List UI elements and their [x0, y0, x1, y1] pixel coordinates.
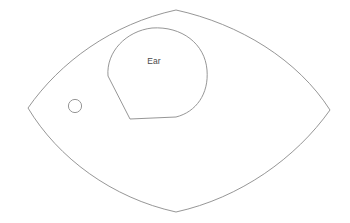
ear-piece-label: Ear [147, 56, 161, 66]
pattern-canvas: Ear [0, 0, 350, 223]
hole-marker-circle [68, 99, 81, 112]
outer-body-outline [28, 10, 330, 212]
pattern-drawing: Ear [0, 0, 350, 223]
ear-piece-outline [108, 28, 207, 119]
